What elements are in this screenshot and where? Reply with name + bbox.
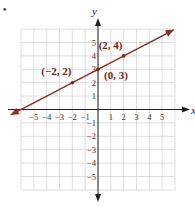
bullet-marker: •: [2, 5, 7, 15]
x-axis-label: x: [190, 104, 195, 116]
data-point: [122, 54, 126, 58]
y-axis-arrow-up-icon: [95, 18, 101, 26]
y-tick-label: −5: [87, 172, 96, 182]
x-tick-label: −4: [42, 112, 52, 122]
x-tick-label: 2: [122, 112, 126, 122]
y-tick-label: −2: [87, 131, 96, 141]
x-tick-label: 5: [160, 112, 164, 122]
x-tick-label: 3: [134, 112, 138, 122]
x-tick-label: 1: [109, 112, 113, 122]
y-tick-label: 5: [92, 38, 96, 48]
axes: xy: [8, 5, 195, 202]
point-label: (2, 4): [99, 39, 123, 52]
y-tick-label: −4: [87, 158, 97, 168]
x-tick-label: −2: [68, 112, 77, 122]
y-tick-label: 1: [92, 91, 96, 101]
y-axis-arrow-down-icon: [95, 194, 101, 202]
y-tick-label: −1: [87, 118, 96, 128]
coordinate-plane-chart: • xy −5−4−3−2−11234554321−1−2−3−4−5 (−2,…: [0, 0, 195, 207]
x-tick-label: −5: [29, 112, 38, 122]
x-tick-label: 4: [147, 112, 152, 122]
point-label: (0, 3): [104, 69, 128, 82]
data-point: [96, 68, 100, 72]
y-tick-label: −3: [87, 145, 96, 155]
y-tick-label: 2: [92, 78, 96, 88]
point-labels: (−2, 2)(0, 3)(2, 4): [41, 39, 128, 85]
y-axis-label: y: [91, 5, 97, 17]
point-label: (−2, 2): [41, 65, 71, 78]
x-tick-label: −3: [55, 112, 64, 122]
x-axis-arrow-icon: [182, 107, 190, 113]
data-point: [71, 81, 75, 85]
